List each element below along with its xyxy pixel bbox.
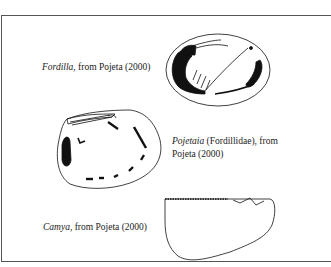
pojetaia-shell-drawing [57,110,161,188]
camya-shell-drawing [165,198,275,260]
fordilla-shell-drawing [166,34,270,106]
